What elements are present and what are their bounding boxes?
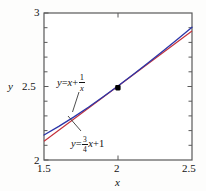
- tangency-point-marker: [115, 85, 120, 90]
- blue-label-frac-numerator: 1: [79, 73, 85, 82]
- red-label-frac-numerator: 3: [82, 136, 88, 144]
- red-label-frac-denominator: 4: [82, 146, 88, 154]
- blue-label-frac-denominator: x: [79, 84, 85, 93]
- y-axis-title: y: [8, 81, 13, 92]
- red-label-fraction: 34: [82, 136, 88, 153]
- plot-canvas: [0, 0, 206, 191]
- red-label-const: 1: [99, 138, 104, 149]
- curve-label-red: y=34x+1: [71, 136, 104, 153]
- x-axis-title: x: [115, 177, 120, 188]
- blue-label-plus: +: [72, 77, 78, 88]
- red-label-eq: =: [76, 138, 82, 149]
- chart-figure: 3 2.5 2 y 1.5 2 2.5 x y=x+1x y=34x+1: [0, 0, 206, 191]
- y-tick-label-2-5: 2.5: [22, 81, 36, 92]
- x-tick-label-1-5: 1.5: [37, 163, 51, 174]
- curve-label-blue: y=x+1x: [57, 73, 85, 92]
- x-tick-label-2: 2: [114, 163, 120, 174]
- x-tick-label-2-5: 2.5: [182, 163, 196, 174]
- blue-label-fraction: 1x: [79, 73, 85, 92]
- y-tick-label-3: 3: [34, 7, 40, 18]
